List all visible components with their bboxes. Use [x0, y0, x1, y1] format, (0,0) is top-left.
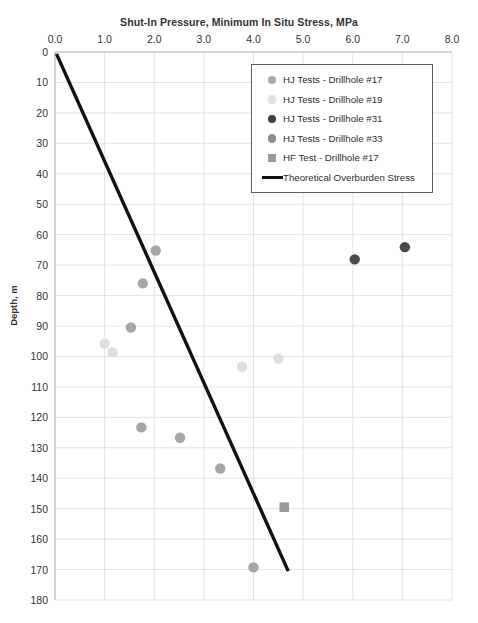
legend-label: HJ Tests - Drillhole #17 [283, 74, 382, 85]
data-point-circle [350, 254, 360, 264]
legend-marker-icon [261, 134, 283, 143]
legend-marker-icon [261, 95, 283, 104]
data-point-circle [138, 278, 148, 288]
data-point-circle [237, 362, 247, 372]
data-point-circle [400, 242, 410, 252]
legend-label: HF Test - Drillhole #17 [283, 152, 379, 163]
data-point-circle [175, 433, 185, 443]
legend-marker-icon [261, 76, 283, 85]
legend-marker-icon [261, 115, 283, 124]
figure-caption [4, 612, 474, 622]
legend-swatch-line [262, 176, 283, 179]
legend-label: HJ Tests - Drillhole #19 [283, 94, 382, 105]
legend-swatch-circle [268, 95, 277, 104]
legend-item: HJ Tests - Drillhole #33 [252, 129, 432, 149]
data-point-circle [136, 422, 146, 432]
legend-label: Theoretical Overburden Stress [283, 172, 415, 183]
legend-item: HJ Tests - Drillhole #31 [252, 109, 432, 129]
legend-marker-icon [261, 154, 283, 163]
data-point-circle [215, 463, 225, 473]
legend-item: Theoretical Overburden Stress [252, 168, 432, 188]
legend-swatch-square [268, 154, 277, 163]
data-point-circle [248, 562, 258, 572]
legend-swatch-circle [268, 134, 277, 143]
data-point-circle [273, 353, 283, 363]
legend-swatch-circle [268, 76, 277, 85]
data-point-circle [151, 245, 161, 255]
chart-figure: Shut-In Pressure, Minimum In Situ Stress… [0, 0, 478, 623]
legend-item: HF Test - Drillhole #17 [252, 148, 432, 168]
data-point-circle [107, 347, 117, 357]
legend-label: HJ Tests - Drillhole #31 [283, 113, 382, 124]
legend-item: HJ Tests - Drillhole #19 [252, 90, 432, 110]
legend-swatch-circle [268, 115, 277, 124]
data-point-circle [99, 338, 109, 348]
chart-legend: HJ Tests - Drillhole #17HJ Tests - Drill… [251, 64, 433, 193]
legend-item: HJ Tests - Drillhole #17 [252, 70, 432, 90]
data-point-circle [126, 322, 136, 332]
data-point-square [279, 502, 289, 512]
legend-marker-icon [261, 176, 283, 179]
legend-label: HJ Tests - Drillhole #33 [283, 133, 382, 144]
